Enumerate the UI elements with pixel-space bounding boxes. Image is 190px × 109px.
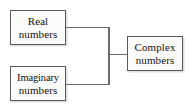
node-real-numbers: Real numbers xyxy=(10,10,66,45)
number-system-diagram: Real numbers Imaginary numbers Complex n… xyxy=(0,0,190,109)
node-imaginary-numbers-line1: Imaginary xyxy=(17,71,59,84)
node-real-numbers-line1: Real xyxy=(28,15,49,28)
node-complex-numbers: Complex numbers xyxy=(127,36,183,71)
node-complex-numbers-line2: numbers xyxy=(136,54,175,67)
node-complex-numbers-line1: Complex xyxy=(134,41,175,54)
node-imaginary-numbers-line2: numbers xyxy=(19,84,58,97)
node-imaginary-numbers: Imaginary numbers xyxy=(10,66,66,101)
node-real-numbers-line2: numbers xyxy=(19,28,58,41)
